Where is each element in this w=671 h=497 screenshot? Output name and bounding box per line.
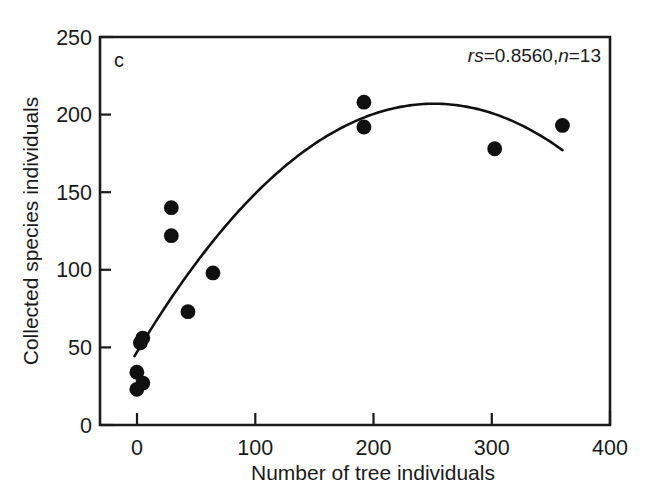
panel-label: c — [114, 49, 124, 71]
data-point — [181, 304, 196, 319]
annotation-rs-value: =0.8560, — [484, 45, 559, 66]
data-point — [487, 141, 502, 156]
x-tick-label-100: 100 — [237, 436, 273, 460]
y-tick-label-100: 100 — [56, 258, 92, 282]
chart-canvas: 0 50 100 150 200 250 0 100 200 300 400 N… — [0, 0, 671, 497]
y-tick-label-150: 150 — [56, 181, 92, 205]
x-tick-label-0: 0 — [131, 436, 143, 460]
x-axis-title: Number of tree individuals — [251, 461, 495, 484]
y-tick-labels: 0 50 100 150 200 250 — [56, 26, 92, 438]
y-axis-title: Collected species individuals — [19, 97, 42, 365]
scatter-plot-figure: 0 50 100 150 200 250 0 100 200 300 400 N… — [0, 0, 671, 497]
y-tick-label-0: 0 — [80, 414, 92, 438]
y-tick-label-200: 200 — [56, 103, 92, 127]
annotation-s: s — [474, 45, 484, 66]
y-tick-label-250: 250 — [56, 26, 92, 50]
data-point — [555, 118, 570, 133]
data-point — [357, 120, 372, 135]
x-tick-label-300: 300 — [474, 436, 510, 460]
x-tick-label-400: 400 — [592, 436, 628, 460]
data-points-layer — [129, 95, 569, 397]
x-axis-ticks — [137, 411, 610, 425]
data-point — [164, 228, 179, 243]
data-point — [135, 376, 150, 391]
annotation-n-value: =13 — [569, 45, 601, 66]
fitted-curve — [134, 104, 562, 356]
data-point — [206, 266, 221, 281]
data-point — [164, 200, 179, 215]
x-tick-labels: 0 100 200 300 400 — [131, 436, 628, 460]
annotation-n: n — [558, 45, 569, 66]
y-tick-label-50: 50 — [68, 336, 92, 360]
correlation-annotation: rs=0.8560,n=13 — [468, 45, 601, 66]
data-point — [135, 331, 150, 346]
y-axis-ticks — [100, 37, 113, 425]
data-point — [357, 95, 372, 110]
x-tick-label-200: 200 — [356, 436, 392, 460]
